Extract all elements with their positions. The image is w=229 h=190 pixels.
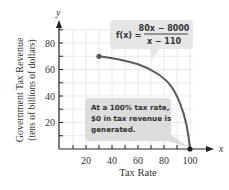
y-axis-title-line1: Government Tax Revenue: [14, 37, 25, 142]
svg-text:At a 100% tax rate,: At a 100% tax rate,: [91, 103, 169, 112]
x-axis-title: Tax Rate: [119, 167, 157, 178]
svg-text:80: 80: [159, 155, 169, 166]
svg-text:40: 40: [107, 155, 117, 166]
svg-text:60: 60: [45, 64, 55, 75]
x-axis-symbol: x: [218, 143, 224, 154]
svg-text:$0 in tax revenue is: $0 in tax revenue is: [91, 114, 171, 123]
chart-canvas: 20 40 60 80 100 20 40 60 80 x y Tax Rate…: [0, 0, 229, 190]
y-axis-title-line2: (tens of billions of dollars): [27, 39, 38, 140]
svg-text:100: 100: [183, 155, 198, 166]
start-point: [96, 54, 101, 59]
svg-text:60: 60: [133, 155, 143, 166]
svg-text:40: 40: [45, 91, 55, 102]
x-axis-arrow-icon: [206, 146, 214, 152]
end-point: [187, 146, 192, 151]
svg-text:generated.: generated.: [91, 125, 136, 134]
svg-text:20: 20: [81, 155, 91, 166]
svg-text:x − 110: x − 110: [147, 37, 182, 46]
y-axis-arrow-icon: [56, 20, 62, 28]
y-tick-labels: 20 40 60 80: [45, 38, 55, 129]
svg-text:80: 80: [45, 38, 55, 49]
svg-text:20: 20: [45, 117, 55, 128]
svg-text:80x − 8000: 80x − 8000: [139, 24, 190, 33]
y-axis-symbol: y: [55, 7, 61, 18]
x-tick-labels: 20 40 60 80 100: [81, 155, 198, 166]
